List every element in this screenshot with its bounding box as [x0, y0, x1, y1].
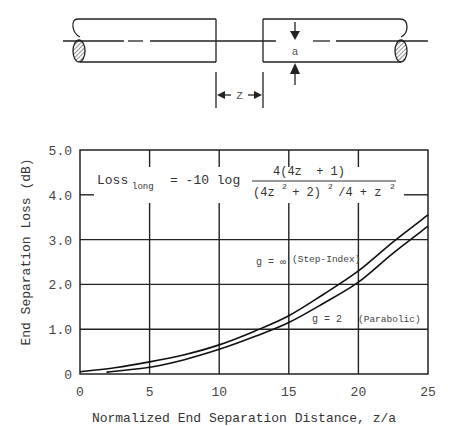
y-tick-label: 4.0: [49, 189, 72, 204]
series-line-step-index: [80, 215, 428, 372]
series-labels: g = ∞ (Step-Index) g = 2 (Parabolic): [256, 254, 421, 325]
series-label-step-index-g: g = ∞: [256, 257, 286, 268]
x-tick-label: 25: [420, 385, 436, 400]
formula-denominator-part: (4z: [253, 186, 275, 200]
left-fiber-top-edge: [73, 19, 216, 37]
radius-arrow-down-icon: [290, 31, 300, 40]
x-axis-label: Normalized End Separation Distance, z/a: [92, 411, 396, 426]
formula-denominator-part: + 2): [285, 186, 321, 200]
gap-label: Z: [236, 90, 243, 102]
figure: Z a 01.02.03.04.05.0 0510152025 End Sepa…: [0, 0, 454, 426]
y-tick-label: 5.0: [49, 144, 72, 159]
y-tick-labels: 01.02.03.04.05.0: [49, 144, 72, 383]
formula-lhs-subscript: long: [132, 182, 154, 192]
series-group: [80, 215, 428, 372]
formula-numerator: 4(4z + 1): [273, 165, 345, 179]
right-fiber-hatched-cross-section: [395, 40, 407, 62]
fiber-diagram: [63, 19, 428, 108]
gap-arrow-left-icon: [217, 91, 225, 99]
x-tick-label: 0: [76, 385, 84, 400]
chart: 01.02.03.04.05.0 0510152025 End Separati…: [19, 144, 436, 426]
series-line-parabolic: [106, 226, 428, 372]
radius-arrow-up-icon: [290, 63, 300, 74]
loss-formula: Loss long = -10 log 4(4z + 1) (4z 2 + 2)…: [97, 165, 396, 200]
series-label-parabolic-name: (Parabolic): [358, 314, 421, 325]
x-tick-label: 10: [211, 385, 227, 400]
x-tick-label: 20: [351, 385, 367, 400]
x-tick-labels: 0510152025: [76, 385, 436, 400]
y-tick-label: 0: [64, 368, 72, 383]
series-label-step-index-name: (Step-Index): [292, 254, 360, 265]
formula-exponent: 2: [390, 182, 395, 191]
x-tick-label: 5: [146, 385, 154, 400]
y-tick-label: 2.0: [49, 278, 72, 293]
y-tick-label: 3.0: [49, 234, 72, 249]
series-label-parabolic-g: g = 2: [312, 314, 342, 325]
formula-lhs: Loss: [97, 173, 128, 188]
formula-denominator: (4z 2 + 2) 2 /4 + z 2: [253, 182, 395, 200]
x-tick-label: 15: [281, 385, 297, 400]
left-fiber-hatched-cross-section: [73, 40, 85, 62]
y-tick-label: 1.0: [49, 323, 72, 338]
y-axis-label: End Separation Loss (dB): [19, 158, 34, 345]
formula-denominator-part: /4 + z: [331, 186, 381, 200]
right-fiber-top-edge: [263, 19, 407, 37]
gap-arrow-right-icon: [254, 91, 262, 99]
radius-label: a: [292, 46, 299, 58]
formula-equals-log: = -10 log: [170, 173, 240, 188]
